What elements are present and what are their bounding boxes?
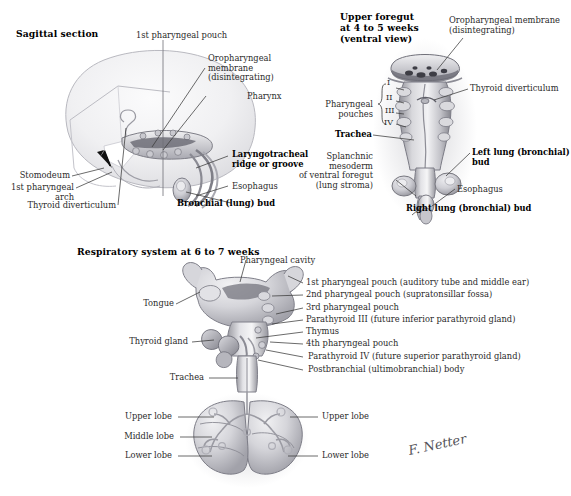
upper-foregut-drawing [373,38,477,224]
label-lower-lobe-right: Lower lobe [322,451,369,461]
label-lower-lobe-left: Lower lobe [100,451,172,461]
upper-foregut-title: Upper foregut at 4 to 5 weeks (ventral v… [340,11,419,44]
label-right-lung-bud: Right lung (bronchial) bud [406,204,531,214]
label-middle-lobe: Middle lobe [100,432,174,442]
illustration-canvas: Sagittal section 1st pharyngeal pouch Or… [0,0,571,496]
label-postbranchial-body: Postbranchial (ultimobranchial) body [308,365,464,375]
label-upper-lobe-left: Upper lobe [100,412,172,422]
label-pharynx-sagittal: Pharynx [247,92,282,102]
label-trachea-resp: Trachea [152,373,204,383]
label-thymus: Thymus [306,327,339,337]
label-upper-lobe-right: Upper lobe [322,412,369,422]
pouch-numeral-iv: IV [384,118,393,127]
label-esophagus-sagittal: Esophagus [232,182,278,192]
label-oropharyngeal-membrane-foregut: Oropharyngeal membrane (disintegrating) [449,16,560,35]
label-bronchial-lung-bud: Bronchial (lung) bud [177,199,275,209]
label-left-lung-bud: Left lung (bronchial) bud [472,148,571,167]
label-stomodeum: Stomodeum [0,171,70,181]
label-second-pharyngeal-pouch: 2nd pharyngeal pouch (supratonsillar fos… [306,290,492,300]
label-parathyroid-iv: Parathyroid IV (future superior parathyr… [308,352,521,362]
label-splanchnic-mesoderm: Splanchnic mesoderm of ventral foregut (… [290,152,373,190]
respiratory-system-title: Respiratory system at 6 to 7 weeks [77,246,260,257]
label-first-pharyngeal-pouch-resp: 1st pharyngeal pouch (auditory tube and … [306,278,529,288]
label-trachea-foregut: Trachea [316,130,372,140]
pouch-numeral-i: I [387,78,390,87]
label-parathyroid-iii: Parathyroid III (future inferior parathy… [306,315,515,325]
label-pharyngeal-pouches: Pharyngeal pouches [288,100,373,119]
label-third-pharyngeal-pouch: 3rd pharyngeal pouch [306,303,399,313]
pouch-numeral-ii: II [386,93,392,102]
label-tongue: Tongue [128,299,174,309]
label-fourth-pharyngeal-pouch: 4th pharyngeal pouch [306,339,398,349]
label-thyroid-diverticulum-sagittal: Thyroid diverticulum [0,201,116,211]
sagittal-section-title: Sagittal section [16,28,98,39]
label-oropharyngeal-membrane-sagittal: Oropharyngeal membrane (disintegrating) [208,54,274,83]
label-pharyngeal-cavity: Pharyngeal cavity [240,256,315,266]
label-esophagus-foregut: Esophagus [457,185,503,195]
label-first-pharyngeal-pouch-sagittal: 1st pharyngeal pouch [136,31,227,41]
label-thyroid-gland: Thyroid gland [108,337,188,347]
label-thyroid-diverticulum-foregut: Thyroid diverticulum [470,84,559,94]
pouch-numeral-iii: III [385,106,394,115]
